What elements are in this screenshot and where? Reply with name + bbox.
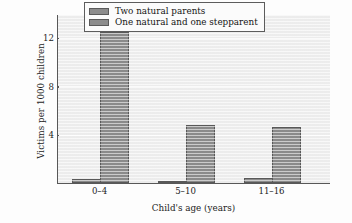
y-tick-label-4: 4 — [32, 130, 54, 140]
gridline-12 — [58, 38, 330, 39]
y-axis-tick-labels: 12 8 4 — [30, 0, 54, 223]
x-axis-title: Child's age (years) — [57, 203, 330, 213]
y-tickmark-12 — [57, 38, 59, 39]
y-tick-label-12: 12 — [32, 33, 54, 43]
legend-swatch-icon-two-natural-parents — [89, 8, 109, 15]
y-tickmark-4 — [57, 135, 59, 136]
plot-area — [57, 15, 330, 184]
legend-label-two-natural-parents: Two natural parents — [115, 6, 205, 17]
x-tick-label-0-4: 0–4 — [92, 186, 107, 196]
legend: Two natural parents One natural and one … — [84, 2, 265, 32]
y-tickmark-8 — [57, 86, 59, 87]
legend-swatch-icon-one-natural-one-stepparent — [89, 19, 109, 26]
legend-item-two-natural-parents: Two natural parents — [89, 6, 258, 17]
legend-item-one-natural-one-stepparent: One natural and one stepparent — [89, 17, 258, 28]
legend-label-one-natural-one-stepparent: One natural and one stepparent — [115, 17, 258, 28]
x-tick-label-5-10: 5–10 — [175, 186, 196, 196]
bar-two-natural-parents-0-4 — [72, 179, 101, 183]
x-axis-tick-labels: 0–4 5–10 11–16 — [57, 186, 330, 200]
bar-chart-figure: Victims per 1000 children 12 8 4 Two nat… — [0, 0, 352, 223]
bar-one-natural-one-stepparent-11-16 — [272, 127, 301, 183]
y-tick-label-8: 8 — [32, 82, 54, 92]
bar-one-natural-one-stepparent-0-4 — [100, 32, 129, 183]
bar-two-natural-parents-11-16 — [244, 178, 273, 184]
x-tick-label-11-16: 11–16 — [258, 186, 284, 196]
bar-two-natural-parents-5-10 — [158, 181, 187, 183]
gridline-8 — [58, 86, 330, 87]
bar-one-natural-one-stepparent-5-10 — [186, 125, 215, 183]
